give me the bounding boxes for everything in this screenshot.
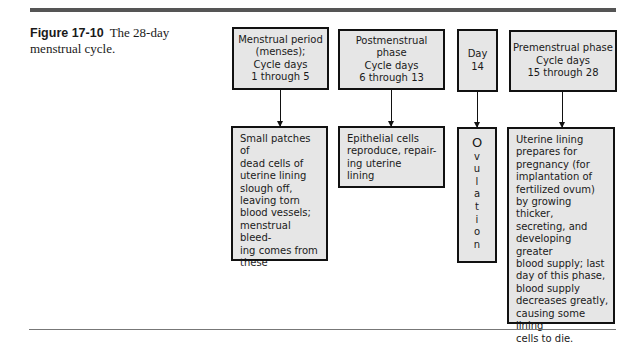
figure-number: Figure 17-10	[30, 26, 104, 40]
postmenstrual-phase-arrow-icon	[391, 90, 392, 126]
premenstrual-phase-header: Premenstrual phase Cycle days 15 through…	[513, 42, 613, 79]
premenstrual-phase-description: Uterine lining prepares for pregnancy (f…	[516, 134, 608, 344]
postmenstrual-phase-header-box: Postmenstrual phase Cycle days 6 through…	[338, 29, 445, 90]
ovulation-label: O v u l a t i o n	[472, 137, 482, 261]
menstrual-period-header: Menstrual period (menses); Cycle days 1 …	[238, 34, 323, 84]
bottom-rule	[29, 329, 616, 330]
menstrual-period-arrow-icon	[280, 90, 281, 126]
premenstrual-phase-description-box: Uterine lining prepares for pregnancy (f…	[507, 127, 615, 324]
postmenstrual-phase-header: Postmenstrual phase Cycle days 6 through…	[340, 35, 443, 85]
figure-caption: Figure 17-10The 28-day menstrual cycle.	[30, 25, 210, 57]
postmenstrual-phase-description-box: Epithelial cells reproduce, repair- ing …	[338, 126, 445, 188]
menstrual-period-description-box: Small patches of dead cells of uterine l…	[231, 126, 328, 261]
menstrual-period-description: Small patches of dead cells of uterine l…	[240, 133, 318, 268]
day-14-header-box: Day 14	[457, 29, 498, 92]
menstrual-period-header-box: Menstrual period (menses); Cycle days 1 …	[232, 27, 329, 90]
premenstrual-phase-header-box: Premenstrual phase Cycle days 15 through…	[509, 30, 617, 92]
premenstrual-phase-arrow-icon	[562, 92, 563, 127]
ovulation-box: O v u l a t i o n	[457, 127, 497, 263]
day-14-header: Day 14	[468, 48, 488, 73]
day-14-arrow-icon	[477, 92, 478, 127]
top-rule	[30, 8, 616, 12]
postmenstrual-phase-description: Epithelial cells reproduce, repair- ing …	[347, 133, 436, 181]
